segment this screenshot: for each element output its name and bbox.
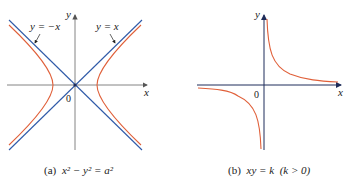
label-y-eq-neg-x: y = −x xyxy=(29,20,60,32)
plot-a: y = −x y = x y x 0 (a) x² − y² = a² xyxy=(7,8,149,177)
y-axis-label-a: y xyxy=(65,8,71,20)
caption-a-equation: x² − y² = a² xyxy=(61,164,114,176)
hyperbola-quadrant-1 xyxy=(267,19,338,82)
pointer-pos-x xyxy=(110,34,115,43)
y-axis-label-b: y xyxy=(254,8,260,20)
caption-a: (a) x² − y² = a² xyxy=(44,164,114,177)
caption-b: (b) xy = k (k > 0) xyxy=(228,164,311,177)
origin-label-b: 0 xyxy=(254,89,259,100)
label-y-eq-x: y = x xyxy=(95,20,119,32)
hyperbola-quadrant-3 xyxy=(198,88,261,149)
pointer-neg-x xyxy=(35,34,40,43)
origin-dot-a xyxy=(73,83,76,86)
x-axis-label-a: x xyxy=(143,86,149,98)
caption-a-prefix: (a) xyxy=(44,164,57,177)
figure-canvas: y = −x y = x y x 0 (a) x² − y² = a² y x … xyxy=(0,0,350,184)
caption-b-prefix: (b) xyxy=(228,164,241,177)
origin-label-a: 0 xyxy=(66,93,71,104)
x-axis-label-b: x xyxy=(337,86,343,98)
plot-b: y x 0 (b) xy = k (k > 0) xyxy=(197,8,343,177)
caption-b-equation: xy = k (k > 0) xyxy=(246,164,311,177)
